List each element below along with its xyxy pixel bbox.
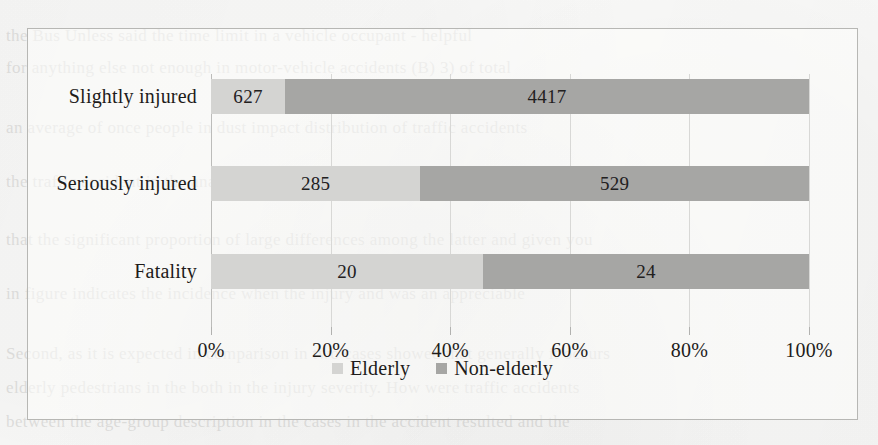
x-tick-mark bbox=[211, 327, 212, 335]
bar-segment-non-elderly[interactable]: 529 bbox=[420, 166, 809, 201]
legend-label: Non-elderly bbox=[454, 357, 553, 380]
legend-item[interactable]: Elderly bbox=[332, 357, 410, 380]
bar-row[interactable]: Fatality2024 bbox=[211, 254, 809, 289]
x-tick-mark bbox=[809, 327, 810, 335]
legend-item[interactable]: Non-elderly bbox=[436, 357, 553, 380]
gridline bbox=[809, 74, 810, 327]
bar-row[interactable]: Seriously injured285529 bbox=[211, 166, 809, 201]
bar-segment-elderly[interactable]: 627 bbox=[211, 79, 285, 114]
legend-swatch-icon bbox=[436, 363, 447, 374]
legend-label: Elderly bbox=[350, 357, 410, 380]
bar-segment-elderly[interactable]: 20 bbox=[211, 254, 483, 289]
bar-segment-non-elderly[interactable]: 24 bbox=[483, 254, 809, 289]
bar-segment-elderly[interactable]: 285 bbox=[211, 166, 420, 201]
bar-row[interactable]: Slightly injured6274417 bbox=[211, 79, 809, 114]
legend-swatch-icon bbox=[332, 363, 343, 374]
x-tick-mark bbox=[570, 327, 571, 335]
chart-frame: 0%20%40%60%80%100%Slightly injured627441… bbox=[27, 28, 858, 420]
x-tick-mark bbox=[450, 327, 451, 335]
category-label: Slightly injured bbox=[0, 79, 197, 114]
x-tick-mark bbox=[689, 327, 690, 335]
chart-legend: ElderlyNon-elderly bbox=[28, 357, 857, 380]
figure-page: the Bus Unless said the time limit in a … bbox=[0, 0, 878, 445]
bar-segment-non-elderly[interactable]: 4417 bbox=[285, 79, 809, 114]
plot-area: 0%20%40%60%80%100%Slightly injured627441… bbox=[211, 74, 809, 327]
x-tick-mark bbox=[331, 327, 332, 335]
category-label: Fatality bbox=[0, 254, 197, 289]
category-label: Seriously injured bbox=[0, 166, 197, 201]
